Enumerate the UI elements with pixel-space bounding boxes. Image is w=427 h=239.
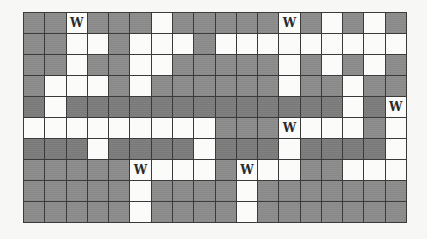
- grid-cell-white[interactable]: [152, 160, 172, 180]
- grid-cell-gray[interactable]: [301, 181, 321, 201]
- grid-cell-gray[interactable]: [301, 160, 321, 180]
- grid-cell-gray[interactable]: [386, 55, 406, 75]
- grid-cell-white[interactable]: [194, 118, 214, 138]
- grid-cell-gray[interactable]: [343, 13, 363, 33]
- grid-cell-white[interactable]: [152, 34, 172, 54]
- grid-cell-gray[interactable]: [216, 118, 236, 138]
- grid-cell-gray[interactable]: [216, 97, 236, 117]
- grid-cell-gray[interactable]: [45, 13, 65, 33]
- grid-cell-white[interactable]: [173, 160, 193, 180]
- grid-cell-gray[interactable]: [386, 181, 406, 201]
- grid-cell-gray[interactable]: [24, 202, 44, 222]
- grid-cell-gray[interactable]: [279, 181, 299, 201]
- grid-cell-white[interactable]: [364, 55, 384, 75]
- grid-cell-white[interactable]: [67, 118, 87, 138]
- grid-cell-white[interactable]: [279, 139, 299, 159]
- grid-cell-gray[interactable]: [24, 55, 44, 75]
- grid-cell-gray[interactable]: [173, 181, 193, 201]
- grid-cell-white[interactable]: [386, 118, 406, 138]
- grid-cell-gray[interactable]: [88, 55, 108, 75]
- grid-cell-white[interactable]: [194, 139, 214, 159]
- grid-cell-gray[interactable]: [130, 139, 150, 159]
- grid-cell-white[interactable]: [322, 55, 342, 75]
- grid-cell-gray[interactable]: [194, 34, 214, 54]
- grid-cell-gray[interactable]: [216, 76, 236, 96]
- grid-cell-gray[interactable]: [109, 160, 129, 180]
- grid-cell-white[interactable]: [88, 118, 108, 138]
- grid-cell-gray[interactable]: [301, 76, 321, 96]
- grid-cell-gray[interactable]: [343, 139, 363, 159]
- grid-cell-gray[interactable]: [109, 202, 129, 222]
- grid-cell-white[interactable]: [130, 181, 150, 201]
- grid-cell-white[interactable]: [386, 160, 406, 180]
- grid-cell-gray[interactable]: [343, 55, 363, 75]
- grid-cell-white[interactable]: [130, 55, 150, 75]
- grid-cell-white[interactable]: [67, 34, 87, 54]
- grid-cell-white[interactable]: [279, 34, 299, 54]
- grid-cell-white[interactable]: [152, 118, 172, 138]
- grid-cell-gray[interactable]: [194, 97, 214, 117]
- grid-cell-white[interactable]: [301, 118, 321, 138]
- grid-cell-gray[interactable]: [343, 202, 363, 222]
- grid-cell-white[interactable]: [301, 34, 321, 54]
- grid-cell-gray[interactable]: [364, 97, 384, 117]
- grid-cell-gray[interactable]: [45, 160, 65, 180]
- grid-cell-white[interactable]: [258, 160, 278, 180]
- grid-cell-gray[interactable]: [67, 202, 87, 222]
- grid-cell-white[interactable]: [24, 118, 44, 138]
- grid-cell-gray[interactable]: [322, 202, 342, 222]
- grid-cell-gray[interactable]: [88, 181, 108, 201]
- grid-cell-white[interactable]: [322, 34, 342, 54]
- grid-cell-marked[interactable]: W: [279, 13, 299, 33]
- grid-cell-gray[interactable]: [194, 202, 214, 222]
- grid-cell-white[interactable]: [258, 34, 278, 54]
- grid-cell-gray[interactable]: [24, 160, 44, 180]
- grid-cell-gray[interactable]: [194, 55, 214, 75]
- grid-cell-white[interactable]: [279, 160, 299, 180]
- grid-cell-marked[interactable]: W: [237, 160, 257, 180]
- grid-cell-gray[interactable]: [322, 181, 342, 201]
- grid-cell-white[interactable]: [109, 118, 129, 138]
- grid-cell-gray[interactable]: [109, 181, 129, 201]
- grid-cell-gray[interactable]: [258, 181, 278, 201]
- grid-cell-white[interactable]: [216, 34, 236, 54]
- grid-cell-gray[interactable]: [364, 139, 384, 159]
- grid-cell-gray[interactable]: [173, 55, 193, 75]
- grid-cell-gray[interactable]: [216, 13, 236, 33]
- grid-cell-white[interactable]: [45, 118, 65, 138]
- grid-cell-white[interactable]: [279, 55, 299, 75]
- grid-cell-gray[interactable]: [152, 76, 172, 96]
- grid-cell-gray[interactable]: [130, 13, 150, 33]
- grid-cell-white[interactable]: [45, 76, 65, 96]
- grid-cell-gray[interactable]: [194, 181, 214, 201]
- grid-cell-gray[interactable]: [45, 55, 65, 75]
- grid-cell-gray[interactable]: [322, 160, 342, 180]
- grid-cell-white[interactable]: [343, 34, 363, 54]
- grid-cell-gray[interactable]: [88, 13, 108, 33]
- grid-cell-gray[interactable]: [109, 76, 129, 96]
- grid-cell-gray[interactable]: [237, 139, 257, 159]
- grid-cell-white[interactable]: [386, 34, 406, 54]
- grid-cell-gray[interactable]: [322, 139, 342, 159]
- grid-cell-gray[interactable]: [24, 97, 44, 117]
- grid-cell-gray[interactable]: [301, 55, 321, 75]
- grid-cell-gray[interactable]: [258, 202, 278, 222]
- grid-cell-gray[interactable]: [67, 139, 87, 159]
- grid-cell-gray[interactable]: [322, 76, 342, 96]
- grid-cell-white[interactable]: [45, 97, 65, 117]
- grid-cell-white[interactable]: [152, 13, 172, 33]
- grid-cell-white[interactable]: [130, 76, 150, 96]
- grid-cell-gray[interactable]: [173, 97, 193, 117]
- grid-cell-white[interactable]: [237, 202, 257, 222]
- grid-cell-white[interactable]: [322, 13, 342, 33]
- grid-cell-gray[interactable]: [279, 202, 299, 222]
- grid-cell-white[interactable]: [173, 34, 193, 54]
- grid-cell-gray[interactable]: [173, 13, 193, 33]
- grid-cell-gray[interactable]: [364, 118, 384, 138]
- grid-cell-gray[interactable]: [152, 202, 172, 222]
- grid-cell-gray[interactable]: [364, 76, 384, 96]
- grid-cell-white[interactable]: [88, 76, 108, 96]
- grid-cell-gray[interactable]: [45, 202, 65, 222]
- grid-cell-gray[interactable]: [258, 118, 278, 138]
- grid-cell-gray[interactable]: [216, 55, 236, 75]
